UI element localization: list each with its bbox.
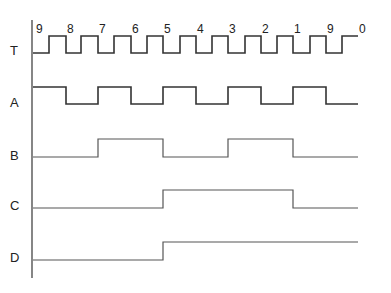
signal-label-c: C [10, 198, 19, 213]
waveform-a [33, 87, 358, 104]
signal-label-d: D [10, 250, 19, 265]
waveform-t [33, 36, 358, 53]
clock-count-label: 5 [164, 22, 171, 36]
waveforms [33, 36, 358, 260]
clock-count-labels: 98765432190 [36, 22, 366, 36]
clock-count-label: 6 [132, 22, 139, 36]
waveform-b [33, 139, 358, 157]
clock-count-label: 1 [294, 22, 301, 36]
signal-label-a: A [10, 95, 19, 110]
waveform-d [33, 242, 358, 260]
signal-labels: TABCD [10, 43, 19, 265]
waveform-c [33, 190, 358, 208]
clock-count-label: 8 [67, 22, 74, 36]
clock-count-label: 9 [36, 22, 43, 36]
clock-count-label: 2 [262, 22, 269, 36]
clock-count-label: 0 [359, 22, 366, 36]
clock-count-label: 4 [197, 22, 204, 36]
clock-count-label: 9 [327, 22, 334, 36]
signal-label-t: T [10, 43, 18, 58]
signal-label-b: B [10, 148, 19, 163]
clock-count-label: 7 [99, 22, 106, 36]
clock-count-label: 3 [229, 22, 236, 36]
timing-diagram: TABCD 98765432190 [0, 0, 391, 293]
